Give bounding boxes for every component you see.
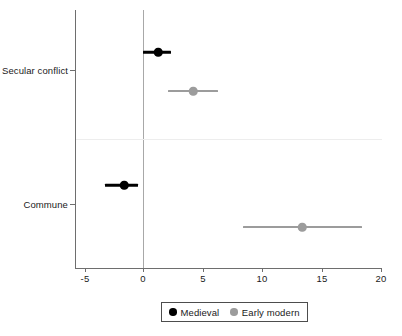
data-point-early-modern-secular-conflict [189, 87, 198, 96]
y-tick-label-secular-conflict: Secular conflict [2, 65, 68, 76]
data-point-early-modern-commune [298, 223, 307, 232]
legend-label-medieval: Medieval [181, 307, 220, 318]
x-tick-label: -5 [81, 273, 90, 284]
x-tick-label: 10 [257, 273, 268, 284]
legend-label-early-modern: Early modern [242, 307, 300, 318]
legend-item-medieval: Medieval [169, 307, 219, 318]
data-point-medieval-commune [120, 181, 129, 190]
x-axis-line [75, 268, 382, 269]
x-tick-label: 20 [376, 273, 387, 284]
x-tick-mark [262, 268, 263, 272]
x-tick-mark [143, 268, 144, 272]
chart-legend: Medieval Early modern [161, 302, 308, 322]
y-tick-mark [70, 70, 75, 71]
x-tick-mark [322, 268, 323, 272]
data-point-medieval-secular-conflict [154, 48, 163, 57]
x-tick-label: 5 [200, 273, 205, 284]
x-tick-label: 0 [140, 273, 145, 284]
x-tick-mark [381, 268, 382, 272]
legend-dot-icon-early-modern [230, 308, 238, 316]
legend-item-early-modern: Early modern [230, 307, 299, 318]
y-tick-mark [70, 204, 75, 205]
forest-plot-chart: -5 0 5 10 15 20 Secular conflict Commune… [0, 0, 402, 336]
x-tick-mark [85, 268, 86, 272]
legend-dot-icon-medieval [169, 308, 177, 316]
x-tick-mark [203, 268, 204, 272]
y-tick-label-commune: Commune [23, 199, 68, 210]
group-separator-line [76, 139, 382, 140]
x-tick-label: 15 [317, 273, 328, 284]
